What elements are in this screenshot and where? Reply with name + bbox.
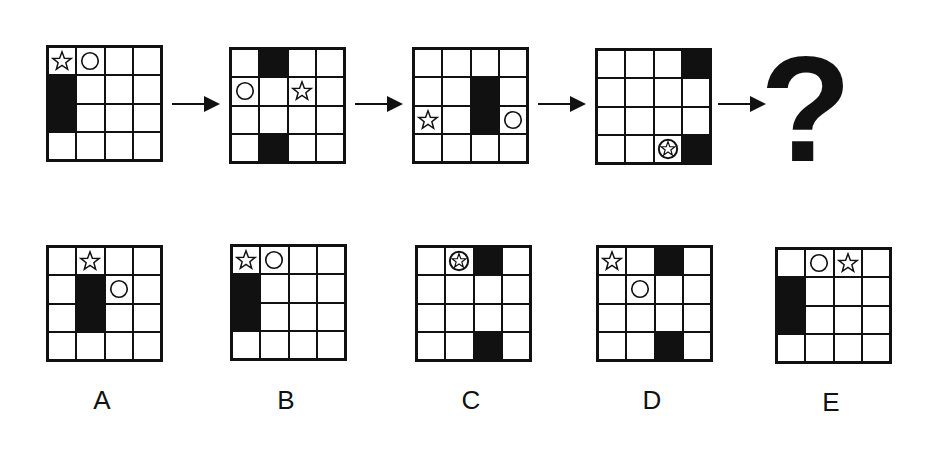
circle-icon xyxy=(263,249,285,271)
grid-cell xyxy=(655,332,683,360)
grid-cell xyxy=(777,306,805,334)
grid-cell xyxy=(471,106,499,134)
sequence-grid-2 xyxy=(229,47,346,164)
grid-cell xyxy=(317,274,345,302)
grid-cell xyxy=(834,334,862,362)
grid-cell xyxy=(834,249,862,277)
grid-cell xyxy=(76,275,104,303)
grid-cell xyxy=(133,132,161,160)
circle-icon xyxy=(108,278,130,300)
grid-cell xyxy=(777,334,805,362)
arrow-right-icon xyxy=(718,95,766,113)
grid-cell xyxy=(654,50,682,78)
grid-cell xyxy=(626,332,654,360)
option-label-e[interactable]: E xyxy=(811,387,851,418)
grid-cell xyxy=(682,50,710,78)
grid-cell xyxy=(232,274,260,302)
option-grid-b[interactable] xyxy=(230,244,347,361)
option-label-d[interactable]: D xyxy=(632,385,672,416)
grid-cell xyxy=(598,247,626,275)
circle-icon xyxy=(629,278,651,300)
grid-cell xyxy=(76,304,104,332)
option-grid-c[interactable] xyxy=(415,245,532,362)
grid-cell xyxy=(597,78,625,106)
grid-cell xyxy=(48,275,76,303)
grid-cell xyxy=(683,332,711,360)
grid-cell xyxy=(474,332,502,360)
grid-cell xyxy=(777,277,805,305)
grid-cell xyxy=(474,247,502,275)
option-grid-e[interactable] xyxy=(775,247,892,364)
grid-cell xyxy=(597,107,625,135)
grid-cell xyxy=(502,332,530,360)
grid-cell xyxy=(655,247,683,275)
grid-cell xyxy=(442,77,470,105)
grid-cell xyxy=(442,106,470,134)
grid-cell xyxy=(442,134,470,162)
grid-cell xyxy=(654,135,682,163)
grid-cell xyxy=(133,275,161,303)
grid-cell xyxy=(417,332,445,360)
sequence-grid-1 xyxy=(46,45,163,162)
grid-cell xyxy=(105,132,133,160)
grid-cell xyxy=(471,77,499,105)
grid-cell xyxy=(417,304,445,332)
grid-cell xyxy=(48,304,76,332)
grid-cell xyxy=(288,106,316,134)
arrow-right-icon xyxy=(538,95,586,113)
grid-cell xyxy=(259,77,287,105)
grid-cell xyxy=(442,49,470,77)
grid-cell xyxy=(499,49,527,77)
question-mark: ? xyxy=(760,34,852,184)
grid-cell xyxy=(231,134,259,162)
grid-cell xyxy=(414,77,442,105)
grid-cell xyxy=(317,331,345,359)
grid-cell xyxy=(76,132,104,160)
grid-cell xyxy=(683,304,711,332)
grid-cell xyxy=(260,303,288,331)
grid-cell xyxy=(862,249,890,277)
option-label-a[interactable]: A xyxy=(82,385,122,416)
grid-cell xyxy=(805,249,833,277)
grid-cell xyxy=(316,134,344,162)
grid-cell xyxy=(105,332,133,360)
grid-cell xyxy=(502,304,530,332)
option-grid-d[interactable] xyxy=(596,245,713,362)
grid-cell xyxy=(316,49,344,77)
grid-cell xyxy=(805,306,833,334)
option-label-c[interactable]: C xyxy=(451,385,491,416)
grid-cell xyxy=(805,334,833,362)
grid-cell xyxy=(48,247,76,275)
grid-cell xyxy=(316,106,344,134)
grid-cell xyxy=(260,274,288,302)
grid-cell xyxy=(626,275,654,303)
option-label-b[interactable]: B xyxy=(266,385,306,416)
circle-icon xyxy=(234,80,256,102)
circle-icon xyxy=(808,252,830,274)
grid-cell xyxy=(232,246,260,274)
grid-cell xyxy=(414,49,442,77)
grid-cell xyxy=(259,106,287,134)
grid-cell xyxy=(48,75,76,103)
grid-cell xyxy=(499,134,527,162)
grid-cell xyxy=(259,49,287,77)
grid-cell xyxy=(133,75,161,103)
arrow-right-icon xyxy=(355,95,403,113)
grid-cell xyxy=(654,107,682,135)
grid-cell xyxy=(48,332,76,360)
grid-cell xyxy=(48,47,76,75)
grid-cell xyxy=(317,246,345,274)
grid-cell xyxy=(655,275,683,303)
grid-cell xyxy=(105,247,133,275)
grid-cell xyxy=(834,306,862,334)
grid-cell xyxy=(288,49,316,77)
grid-cell xyxy=(105,304,133,332)
grid-cell xyxy=(289,274,317,302)
grid-cell xyxy=(105,75,133,103)
grid-cell xyxy=(259,134,287,162)
grid-cell xyxy=(777,249,805,277)
grid-cell xyxy=(474,304,502,332)
grid-cell xyxy=(105,47,133,75)
star-icon xyxy=(837,252,859,274)
option-grid-a[interactable] xyxy=(46,245,163,362)
